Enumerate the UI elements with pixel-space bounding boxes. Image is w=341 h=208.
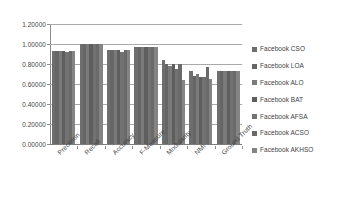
bar-group <box>50 24 77 144</box>
bar-group <box>77 24 104 144</box>
legend-swatch-icon <box>252 114 257 119</box>
legend-swatch-icon <box>252 148 257 153</box>
x-axis: PrecisionRecallAccuracyF-MeasureModulari… <box>50 146 242 208</box>
y-tick-mark <box>47 64 50 65</box>
x-tick-mark <box>77 146 78 149</box>
y-tick-mark <box>47 84 50 85</box>
legend-swatch-icon <box>252 131 257 136</box>
bar[interactable] <box>72 51 75 145</box>
y-axis: 1.200001.000000.800000.600000.400000.200… <box>2 0 46 208</box>
legend-swatch-icon <box>252 97 257 102</box>
y-tick-mark <box>47 104 50 105</box>
y-tick-mark <box>47 144 50 145</box>
legend-label: Facebook CSO <box>260 45 305 53</box>
bar-group <box>132 24 159 144</box>
legend-label: Facebook LOA <box>260 62 304 70</box>
x-tick-mark <box>105 146 106 149</box>
y-tick-label: 0.80000 <box>2 61 46 68</box>
y-tick-label: 0.40000 <box>2 101 46 108</box>
y-tick-label: 0.20000 <box>2 121 46 128</box>
legend-item[interactable]: Facebook LOA <box>252 58 341 75</box>
y-tick-label: 0.00000 <box>2 141 46 148</box>
legend-item[interactable]: Facebook AKHSO <box>252 142 341 159</box>
bar-group <box>160 24 187 144</box>
y-tick-label: 1.20000 <box>2 21 46 28</box>
legend-item[interactable]: Facebook AFSA <box>252 108 341 125</box>
plot-wrapper: 1.200001.000000.800000.600000.400000.200… <box>0 0 250 208</box>
legend-item[interactable]: Facebook BAT <box>252 91 341 108</box>
x-tick-mark <box>187 146 188 149</box>
bar-group <box>215 24 242 144</box>
legend-label: Facebook AFSA <box>260 113 308 121</box>
legend-swatch-icon <box>252 47 257 52</box>
y-tick-label: 0.60000 <box>2 81 46 88</box>
bar-groups <box>50 24 242 144</box>
bar[interactable] <box>127 50 130 144</box>
legend-label: Facebook ACSO <box>260 129 309 137</box>
y-tick-mark <box>47 124 50 125</box>
y-tick-label: 1.00000 <box>2 41 46 48</box>
bar[interactable] <box>209 79 212 145</box>
bar[interactable] <box>154 47 157 144</box>
bar-group <box>105 24 132 144</box>
legend-label: Facebook ALO <box>260 79 304 87</box>
bar-chart: 1.200001.000000.800000.600000.400000.200… <box>0 0 341 208</box>
x-tick-mark <box>215 146 216 149</box>
bar-group <box>187 24 214 144</box>
chart-legend: Facebook CSOFacebook LOAFacebook ALOFace… <box>252 41 341 159</box>
x-tick-mark <box>160 146 161 149</box>
legend-swatch-icon <box>252 64 257 69</box>
legend-item[interactable]: Facebook ACSO <box>252 125 341 142</box>
x-tick-mark <box>242 146 243 149</box>
legend-label: Facebook BAT <box>260 96 303 104</box>
plot-area <box>50 24 242 144</box>
bar[interactable] <box>99 44 102 144</box>
legend-item[interactable]: Facebook CSO <box>252 41 341 58</box>
y-tick-mark <box>47 24 50 25</box>
legend-label: Facebook AKHSO <box>260 146 313 154</box>
legend-item[interactable]: Facebook ALO <box>252 75 341 92</box>
legend-swatch-icon <box>252 80 257 85</box>
y-tick-mark <box>47 44 50 45</box>
x-tick-mark <box>132 146 133 149</box>
